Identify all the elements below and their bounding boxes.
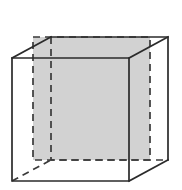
cube-diagram-svg xyxy=(0,0,182,190)
cube-figure: A wireframe cube drawn in oblique projec… xyxy=(0,0,182,190)
